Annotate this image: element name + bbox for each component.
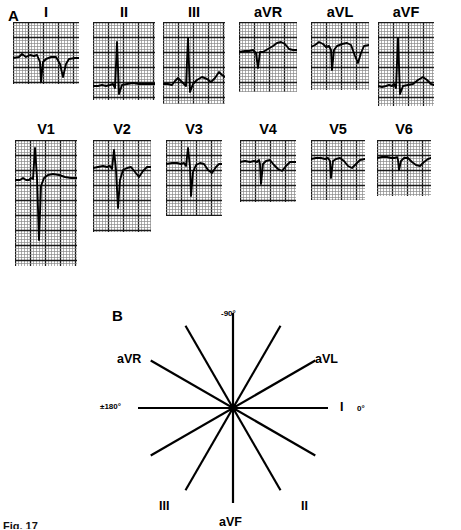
ecg-lead-label-v2: V2 (93, 122, 151, 137)
ecg-lead-v4: V4 (240, 0, 296, 202)
ecg-lead-v1: V1 (15, 0, 77, 266)
figure-caption-remnant: Fig. 17 (3, 521, 63, 529)
ecg-lead-v6: V6 (377, 0, 431, 196)
ecg-strip-v1 (15, 140, 77, 266)
ecg-strip-v6 (377, 140, 431, 196)
axis-label-avf: aVF (219, 516, 242, 529)
ecg-strip-v5 (311, 140, 365, 200)
ecg-lead-v3: V3 (166, 0, 222, 216)
ecg-lead-label-v5: V5 (311, 122, 365, 137)
ecg-waveform-v1 (15, 140, 77, 266)
ecg-lead-v2: V2 (93, 0, 151, 232)
ecg-waveform-v6 (377, 140, 431, 196)
axis-label-ii: II (301, 500, 308, 513)
ecg-strip-v2 (93, 140, 151, 232)
axis-label-avr: aVR (117, 353, 141, 366)
degree-label-0: -90° (221, 310, 236, 318)
ecg-lead-label-v4: V4 (240, 122, 296, 137)
ecg-waveform-v3 (166, 140, 222, 216)
ecg-waveform-v4 (240, 140, 296, 202)
ecg-lead-label-v6: V6 (377, 122, 431, 137)
hexaxial-reference-diagram: IIIIIIaVRaVLaVF-90°0°±180°+90° (100, 300, 400, 525)
degree-label-1: 0° (357, 405, 365, 413)
ecg-lead-label-v1: V1 (15, 122, 77, 137)
axis-origin (229, 404, 237, 412)
ecg-lead-label-v3: V3 (166, 122, 222, 137)
ecg-waveform-v2 (93, 140, 151, 232)
axis-label-iii: III (159, 500, 169, 513)
ecg-lead-v5: V5 (311, 0, 365, 200)
degree-label-2: ±180° (100, 403, 121, 411)
ecg-figure: A B IIIIIIaVRaVLaVFV1V2V3V4V5V6 IIIIIIaV… (0, 0, 461, 530)
hexaxial-axes (100, 300, 400, 525)
ecg-waveform-v5 (311, 140, 365, 200)
axis-label-avl: aVL (315, 353, 338, 366)
ecg-strip-v3 (166, 140, 222, 216)
axis-label-i: I (340, 401, 343, 414)
ecg-strip-v4 (240, 140, 296, 202)
